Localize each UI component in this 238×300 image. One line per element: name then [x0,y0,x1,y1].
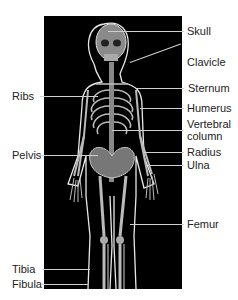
ribs-leader [40,96,98,97]
label-humerus: Humerus [187,102,232,114]
sternum-leader [136,88,184,89]
vertebral-column-leader [112,130,184,131]
label-column: column [187,130,222,142]
tibia-leader [42,269,90,270]
label-radius: Radius [187,146,221,158]
label-ribs: Ribs [12,90,34,102]
label-clavicle: Clavicle [187,56,226,68]
label-skull: Skull [187,25,211,37]
label-tibia: Tibia [12,263,35,275]
skull-leader [108,31,184,32]
label-femur: Femur [187,218,219,230]
humerus-leader [140,108,184,109]
femur-leader [130,224,184,225]
fibula-leader [42,284,88,285]
label-sternum: Sternum [188,82,230,94]
ulna-leader [148,165,184,166]
label-fibula: Fibula [12,278,42,290]
label-pelvis: Pelvis [12,149,41,161]
label-vertebral: Vertebral [187,118,231,130]
label-ulna: Ulna [187,159,210,171]
pelvis-leader [40,155,98,156]
radius-leader [144,152,184,153]
